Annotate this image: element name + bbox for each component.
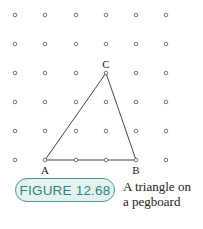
caption-text: A triangle on a pegboard — [123, 179, 203, 209]
peg — [43, 100, 47, 104]
peg — [134, 100, 138, 104]
vertex-label-c: C — [102, 58, 109, 70]
peg — [134, 42, 138, 46]
peg — [13, 13, 17, 17]
vertex-labels: ABC — [41, 58, 140, 176]
peg — [74, 71, 78, 75]
caption-line-2: a pegboard — [123, 194, 203, 209]
peg — [104, 71, 108, 75]
peg — [134, 158, 138, 162]
pegboard-diagram: ABC — [0, 0, 203, 176]
peg — [74, 13, 78, 17]
peg — [74, 129, 78, 133]
peg — [164, 100, 168, 104]
figure-number-badge: FIGURE 12.68 — [15, 178, 115, 202]
vertex-label-b: B — [132, 164, 139, 176]
peg — [164, 129, 168, 133]
pegboard-pegs — [13, 13, 168, 162]
triangle-abc — [45, 73, 136, 160]
peg — [164, 71, 168, 75]
peg — [43, 71, 47, 75]
peg — [134, 129, 138, 133]
peg — [164, 13, 168, 17]
triangle — [45, 73, 136, 160]
peg — [13, 158, 17, 162]
peg — [74, 158, 78, 162]
peg — [43, 42, 47, 46]
peg — [104, 100, 108, 104]
peg — [134, 71, 138, 75]
peg — [104, 42, 108, 46]
peg — [13, 42, 17, 46]
peg — [164, 158, 168, 162]
peg — [74, 42, 78, 46]
peg — [164, 42, 168, 46]
peg — [74, 100, 78, 104]
peg — [43, 13, 47, 17]
peg — [104, 13, 108, 17]
peg — [43, 129, 47, 133]
figure-caption: FIGURE 12.68 A triangle on a pegboard — [0, 176, 203, 226]
peg — [43, 158, 47, 162]
vertex-label-a: A — [41, 164, 49, 176]
peg — [13, 71, 17, 75]
peg — [134, 13, 138, 17]
peg — [104, 129, 108, 133]
peg — [13, 129, 17, 133]
peg — [104, 158, 108, 162]
peg — [13, 100, 17, 104]
caption-line-1: A triangle on — [123, 179, 203, 194]
